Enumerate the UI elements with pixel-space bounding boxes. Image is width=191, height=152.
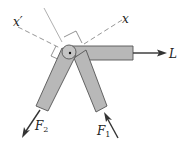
F2-label: F2: [35, 120, 48, 134]
F1-label: F1: [97, 125, 110, 139]
L-label: L: [169, 48, 177, 60]
x-axis: [84, 20, 122, 44]
vertical-reference-line: [44, 8, 62, 42]
F1-label-subscript: 1: [105, 130, 110, 139]
x-prime-axis: [18, 27, 60, 48]
force-F2-arrowhead: [22, 127, 30, 138]
pin-joint: [62, 45, 76, 59]
F2-label-subscript: 2: [43, 125, 48, 134]
diagram-graphics: [0, 0, 191, 152]
linkage-diagram: x′ x L F2 F1: [0, 0, 191, 152]
pin-center-dot: [69, 52, 71, 54]
x-label: x: [122, 13, 129, 25]
right-angle-marker-upper: [64, 31, 82, 43]
x-prime-label: x′: [13, 16, 23, 28]
